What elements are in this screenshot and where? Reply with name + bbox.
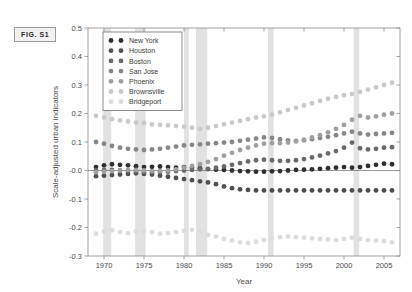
data-point — [166, 231, 171, 236]
data-point — [286, 168, 291, 173]
data-point — [262, 238, 267, 243]
data-point — [350, 117, 355, 122]
data-point — [318, 99, 323, 104]
data-point — [222, 184, 227, 189]
data-point — [294, 235, 299, 240]
data-point — [310, 155, 315, 160]
data-point — [270, 169, 275, 174]
data-point — [326, 166, 331, 171]
data-point — [270, 141, 275, 146]
data-point — [118, 162, 123, 167]
data-point — [318, 153, 323, 158]
data-point — [350, 140, 355, 145]
data-point — [278, 110, 283, 115]
data-point — [166, 145, 171, 150]
data-point — [310, 236, 315, 241]
data-point — [262, 135, 267, 140]
data-point — [390, 240, 395, 245]
data-point — [342, 145, 347, 150]
data-point — [318, 166, 323, 171]
data-point — [350, 129, 355, 134]
recession-band — [184, 28, 189, 256]
data-point — [358, 188, 363, 193]
data-point — [286, 140, 291, 145]
data-point — [150, 230, 155, 235]
legend-marker — [119, 48, 124, 53]
data-point — [166, 168, 171, 173]
data-point — [302, 137, 307, 142]
legend-label: Bridgeport — [129, 98, 161, 106]
data-point — [294, 158, 299, 163]
chart-canvas: 19701975198019851990199520002005 -0.3-0.… — [0, 0, 412, 292]
data-point — [302, 188, 307, 193]
data-point — [238, 148, 243, 153]
recession-band — [196, 28, 207, 256]
data-point — [150, 169, 155, 174]
data-point — [262, 141, 267, 146]
data-point — [326, 134, 331, 139]
data-point — [310, 167, 315, 172]
legend-marker — [119, 69, 124, 74]
data-point — [358, 113, 363, 118]
data-point — [110, 144, 115, 149]
legend-label: Houston — [129, 47, 155, 54]
data-point — [366, 188, 371, 193]
y-tick-label: 0.3 — [72, 81, 82, 90]
data-point — [174, 167, 179, 172]
data-point — [334, 188, 339, 193]
data-point — [302, 167, 307, 172]
data-point — [286, 108, 291, 113]
data-point — [374, 114, 379, 119]
data-point — [214, 157, 219, 162]
data-point — [118, 168, 123, 173]
data-point — [158, 169, 163, 174]
data-point — [278, 158, 283, 163]
data-point — [366, 164, 371, 169]
data-point — [374, 146, 379, 151]
x-tick-label: 1990 — [256, 261, 273, 270]
data-point — [110, 169, 115, 174]
data-point — [230, 162, 235, 167]
data-point — [206, 141, 211, 146]
data-point — [150, 122, 155, 127]
legend[interactable]: New YorkHoustonBostonSan JosePhoenixBrow… — [103, 32, 182, 110]
data-point — [246, 159, 251, 164]
data-point — [126, 163, 131, 168]
data-point — [302, 157, 307, 162]
data-point — [142, 168, 147, 173]
data-point — [326, 96, 331, 101]
data-point — [166, 174, 171, 179]
data-point — [358, 89, 363, 94]
data-point — [342, 165, 347, 170]
x-tick-label: 1970 — [96, 261, 113, 270]
data-point — [326, 237, 331, 242]
data-point — [374, 132, 379, 137]
data-point — [182, 229, 187, 234]
y-tick-label: -0.1 — [69, 195, 82, 204]
data-point — [358, 237, 363, 242]
data-point — [246, 169, 251, 174]
data-point — [326, 188, 331, 193]
data-point — [342, 131, 347, 136]
data-point — [294, 188, 299, 193]
data-point — [126, 168, 131, 173]
x-axis-title: Year — [236, 277, 253, 286]
data-point — [198, 126, 203, 131]
data-point — [294, 168, 299, 173]
data-point — [222, 140, 227, 145]
x-tick-label: 1975 — [136, 261, 153, 270]
legend-label: Phoenix — [129, 78, 155, 85]
data-point — [158, 231, 163, 236]
data-point — [366, 238, 371, 243]
data-point — [222, 237, 227, 242]
data-point — [110, 228, 115, 233]
data-point — [382, 112, 387, 117]
data-point — [126, 231, 131, 236]
data-point — [278, 188, 283, 193]
data-point — [238, 138, 243, 143]
data-point — [182, 165, 187, 170]
legend-marker — [119, 59, 124, 64]
data-point — [134, 229, 139, 234]
legend-marker — [109, 48, 114, 53]
data-point — [334, 126, 339, 131]
